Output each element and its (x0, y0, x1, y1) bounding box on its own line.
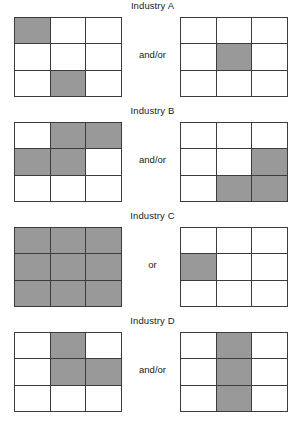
pattern-grid-left (14, 17, 122, 97)
industry-block: Industry Band/or (0, 105, 305, 210)
industry-title: Industry C (0, 210, 305, 222)
industry-block: Industry Dand/or (0, 315, 305, 420)
grid-cell-empty (252, 18, 288, 44)
grid-cell-empty (86, 71, 122, 97)
grid-cell-empty (15, 71, 51, 97)
grid-cell-empty (15, 176, 51, 202)
grid-cell-empty (181, 359, 217, 385)
grid-cell-empty (217, 71, 253, 97)
pattern-grid-right (180, 122, 288, 202)
grid-cell-empty (252, 123, 288, 149)
grid-cell-empty (51, 18, 87, 44)
grid-cell-empty (217, 281, 253, 307)
grid-cell-shaded (181, 254, 217, 280)
grid-cell-empty (181, 18, 217, 44)
grid-cell-shaded (86, 254, 122, 280)
grid-cell-empty (252, 386, 288, 412)
grid-cell-empty (217, 123, 253, 149)
grid-cell-empty (181, 149, 217, 175)
grid-cell-shaded (252, 176, 288, 202)
grid-cell-empty (86, 176, 122, 202)
industry-block: Industry Aand/or (0, 0, 305, 105)
grid-cell-shaded (86, 123, 122, 149)
pattern-grid-left (14, 227, 122, 307)
grid-cell-shaded (252, 149, 288, 175)
pattern-grid-left (14, 122, 122, 202)
industry-title: Industry A (0, 0, 305, 12)
pattern-grid-right (180, 17, 288, 97)
grid-cell-empty (181, 123, 217, 149)
grid-cell-shaded (15, 18, 51, 44)
grid-cell-empty (217, 149, 253, 175)
grid-cell-shaded (51, 228, 87, 254)
grid-cell-shaded (15, 281, 51, 307)
grid-cell-shaded (15, 228, 51, 254)
grid-cell-shaded (86, 228, 122, 254)
industry-pattern-figure: Industry Aand/orIndustry Band/orIndustry… (0, 0, 305, 429)
grid-cell-empty (86, 44, 122, 70)
grid-cell-empty (51, 44, 87, 70)
grid-cell-empty (181, 333, 217, 359)
pattern-grid-right (180, 227, 288, 307)
grid-cell-empty (15, 123, 51, 149)
grid-cell-shaded (15, 254, 51, 280)
grid-cell-empty (252, 44, 288, 70)
grid-cell-shaded (217, 359, 253, 385)
grid-cell-shaded (51, 281, 87, 307)
grid-cell-shaded (51, 333, 87, 359)
grid-cell-empty (252, 359, 288, 385)
grid-cell-empty (51, 176, 87, 202)
grid-cell-shaded (51, 71, 87, 97)
grid-cell-shaded (51, 149, 87, 175)
grid-cell-shaded (217, 333, 253, 359)
grid-cell-shaded (51, 359, 87, 385)
grid-cell-empty (181, 386, 217, 412)
grid-cell-empty (252, 71, 288, 97)
grid-cell-empty (15, 359, 51, 385)
grid-cell-shaded (51, 123, 87, 149)
industry-title: Industry B (0, 105, 305, 117)
industry-block: Industry Cor (0, 210, 305, 315)
grid-cell-empty (252, 281, 288, 307)
industry-title: Industry D (0, 315, 305, 327)
grid-cell-empty (86, 333, 122, 359)
grid-cell-empty (15, 44, 51, 70)
grid-cell-empty (86, 18, 122, 44)
grid-cell-empty (86, 149, 122, 175)
grid-cell-empty (181, 281, 217, 307)
grid-cell-shaded (217, 44, 253, 70)
grid-cell-empty (252, 228, 288, 254)
grid-cell-empty (181, 176, 217, 202)
grid-cell-shaded (15, 149, 51, 175)
grid-cell-shaded (51, 254, 87, 280)
grid-cell-empty (252, 333, 288, 359)
grid-cell-empty (15, 386, 51, 412)
grid-cell-empty (15, 333, 51, 359)
pattern-grid-right (180, 332, 288, 412)
grid-cell-empty (217, 18, 253, 44)
grid-cell-shaded (86, 281, 122, 307)
grid-cell-shaded (217, 386, 253, 412)
grid-cell-empty (86, 386, 122, 412)
grid-cell-shaded (86, 359, 122, 385)
grid-cell-shaded (217, 176, 253, 202)
pattern-grid-left (14, 332, 122, 412)
grid-cell-empty (181, 71, 217, 97)
grid-cell-empty (217, 254, 253, 280)
grid-cell-empty (252, 254, 288, 280)
grid-cell-empty (181, 228, 217, 254)
grid-cell-empty (217, 228, 253, 254)
grid-cell-empty (51, 386, 87, 412)
grid-cell-empty (181, 44, 217, 70)
